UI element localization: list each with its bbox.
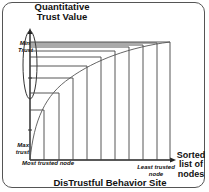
diagram-caption: DisTrustful Behavior Site (40, 178, 180, 188)
node-step-lines (30, 42, 170, 160)
least-trusted-node-label: Least trusted node (130, 164, 182, 177)
y-axis-title: Quantitative Trust Value (22, 2, 102, 22)
x-axis-title: Sorted list of nodes (176, 151, 206, 179)
trust-curve (30, 42, 170, 160)
min-trust-label: Min Trust (18, 40, 30, 53)
most-trusted-node-label: Most trusted node (22, 160, 74, 167)
max-trust-label: Max trust (9, 142, 29, 155)
